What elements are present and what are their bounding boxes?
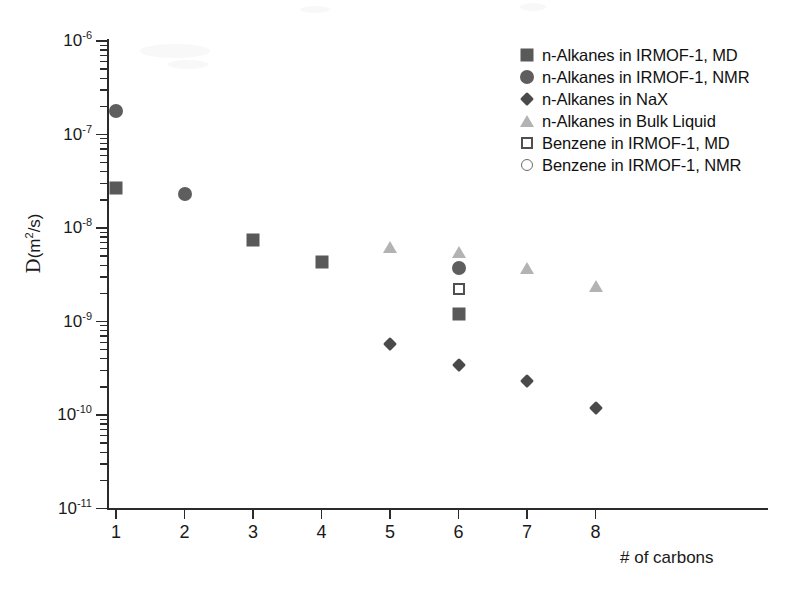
legend-entry: Benzene in IRMOF-1, NMR — [516, 154, 794, 176]
y-tick-minor — [100, 68, 107, 69]
y-tick-minor — [100, 138, 107, 139]
y-tick-minor — [100, 293, 107, 294]
y-tick-minor — [100, 248, 107, 249]
y-tick-minor — [100, 236, 107, 237]
legend-swatch — [516, 44, 542, 66]
y-tick-label: 10-11 — [20, 500, 92, 517]
y-axis-title-close: /s) — [25, 213, 44, 232]
y-tick-minor — [100, 265, 107, 266]
legend-swatch — [516, 132, 542, 154]
y-axis-title-superscript: 2 — [23, 232, 35, 238]
x-tick-label: 1 — [101, 522, 131, 543]
legend-label: n-Alkanes in IRMOF-1, MD — [542, 46, 738, 65]
y-tick-minor — [100, 325, 107, 326]
y-tick-minor — [100, 255, 107, 256]
x-tick — [115, 509, 116, 519]
data-point — [520, 374, 534, 388]
y-axis-title-symbol: D — [22, 258, 44, 273]
scan-artifact — [168, 60, 208, 69]
y-tick-minor — [100, 242, 107, 243]
x-tick-label: 8 — [581, 522, 611, 543]
legend-entry: n-Alkanes in IRMOF-1, MD — [516, 44, 794, 66]
y-tick-major — [96, 321, 107, 322]
y-axis-title-open: (m — [25, 238, 44, 258]
data-point — [315, 256, 328, 269]
x-tick-label: 3 — [238, 522, 268, 543]
y-tick-minor — [100, 463, 107, 464]
scan-artifact — [140, 44, 210, 58]
data-point — [453, 283, 465, 295]
y-tick-minor — [100, 442, 107, 443]
y-tick-major — [96, 40, 107, 41]
legend-label: Benzene in IRMOF-1, NMR — [542, 156, 741, 175]
y-tick-minor — [100, 148, 107, 149]
x-tick — [321, 509, 322, 519]
data-point — [589, 280, 603, 292]
filled-circle-marker — [520, 70, 534, 84]
y-tick-minor — [100, 452, 107, 453]
y-tick-minor — [100, 45, 107, 46]
data-point — [452, 246, 466, 258]
y-tick-major — [96, 134, 107, 135]
y-tick-minor — [100, 349, 107, 350]
x-tick-label: 4 — [307, 522, 337, 543]
y-tick-minor — [100, 106, 107, 107]
x-tick-label: 5 — [375, 522, 405, 543]
y-axis-title: D(m2/s) — [22, 164, 45, 324]
legend-swatch — [516, 66, 542, 88]
data-point — [451, 358, 465, 372]
y-tick-minor — [100, 419, 107, 420]
y-tick-label: 10-6 — [20, 32, 92, 49]
y-tick-minor — [100, 143, 107, 144]
chart-legend: n-Alkanes in IRMOF-1, MDn-Alkanes in IRM… — [516, 44, 794, 176]
data-point — [452, 261, 466, 275]
x-tick-label: 7 — [512, 522, 542, 543]
x-tick — [184, 509, 185, 519]
y-tick-minor — [100, 78, 107, 79]
x-axis-line — [107, 508, 768, 510]
y-tick-minor — [100, 276, 107, 277]
y-tick-minor — [100, 55, 107, 56]
y-tick-label: 10-7 — [20, 126, 92, 143]
data-point — [383, 241, 397, 253]
data-point — [520, 262, 534, 274]
legend-label: n-Alkanes in NaX — [542, 90, 668, 109]
y-tick-minor — [100, 155, 107, 156]
data-point — [588, 401, 602, 415]
y-tick-minor — [100, 199, 107, 200]
y-tick-minor — [100, 358, 107, 359]
open-circle-marker — [521, 159, 533, 171]
x-axis-title: # of carbons — [620, 548, 714, 568]
legend-swatch — [516, 88, 542, 110]
legend-label: n-Alkanes in Bulk Liquid — [542, 112, 716, 131]
open-square-marker — [521, 137, 533, 149]
x-tick — [526, 509, 527, 519]
y-tick-minor — [100, 342, 107, 343]
x-tick — [595, 509, 596, 519]
x-tick — [252, 509, 253, 519]
y-tick-minor — [100, 386, 107, 387]
legend-swatch — [516, 110, 542, 132]
y-tick-minor — [100, 162, 107, 163]
data-point — [383, 337, 397, 351]
y-tick-minor — [100, 61, 107, 62]
filled-triangle-marker — [520, 115, 534, 127]
x-tick — [389, 509, 390, 519]
y-tick-minor — [100, 330, 107, 331]
legend-label: Benzene in IRMOF-1, MD — [542, 134, 730, 153]
legend-label: n-Alkanes in IRMOF-1, NMR — [542, 68, 749, 87]
y-tick-minor — [100, 370, 107, 371]
data-point — [109, 104, 123, 118]
legend-entry: n-Alkanes in Bulk Liquid — [516, 110, 794, 132]
legend-swatch — [516, 154, 542, 176]
y-tick-minor — [100, 423, 107, 424]
y-tick-minor — [100, 232, 107, 233]
data-point — [452, 308, 465, 321]
scan-artifact — [520, 3, 546, 11]
scan-artifact — [300, 6, 330, 13]
x-tick — [458, 509, 459, 519]
data-point — [247, 233, 260, 246]
y-tick-major — [96, 414, 107, 415]
legend-entry: n-Alkanes in NaX — [516, 88, 794, 110]
y-tick-minor — [100, 335, 107, 336]
